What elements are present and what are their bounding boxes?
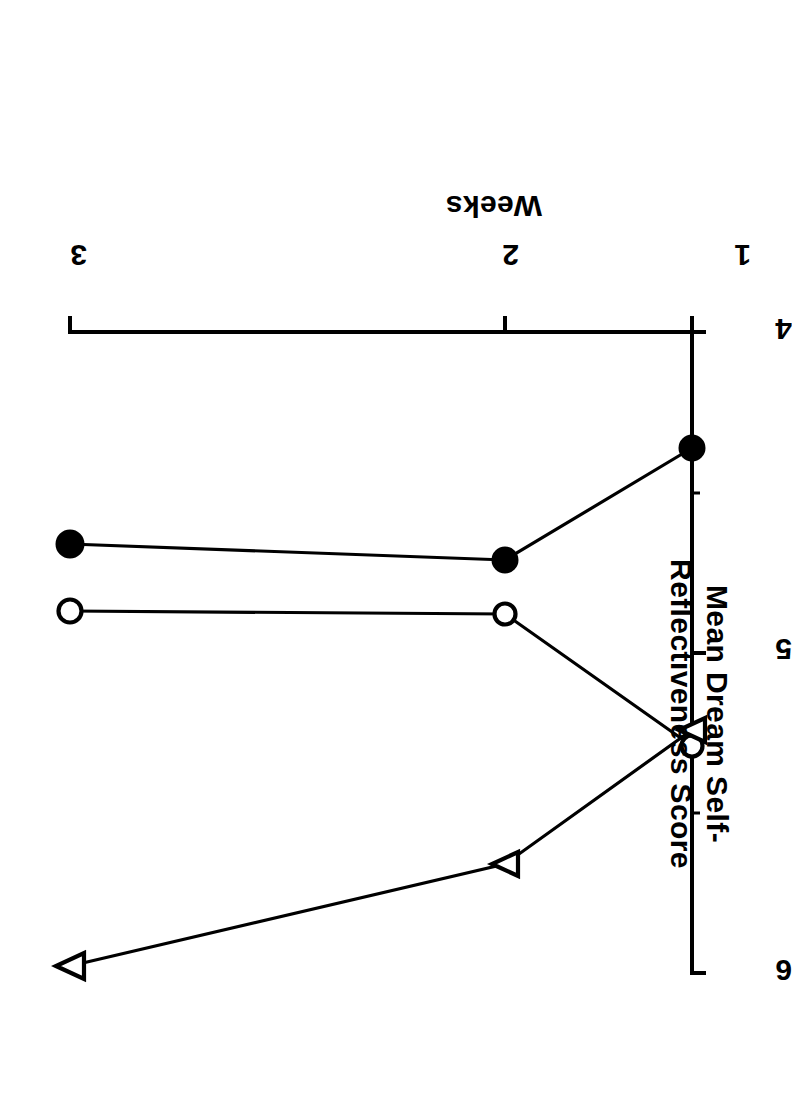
series-filled-circle <box>57 436 704 572</box>
datapoint-open-circle-week3 <box>59 600 82 623</box>
series-filled-circle-path <box>70 448 692 560</box>
datapoint-open-triangle-week2 <box>492 852 518 876</box>
y-axis-title-line1: Mean Dream Self- <box>699 504 735 924</box>
datapoint-filled-circle-week2 <box>493 548 517 572</box>
x-axis-title: Weeks <box>445 188 542 224</box>
series-open-triangle-path <box>70 730 692 966</box>
series-open-circle-path <box>70 611 692 746</box>
y-tick-label-4: 4 <box>775 314 792 344</box>
y-tick-label-6: 6 <box>775 955 792 985</box>
series-open-triangle <box>56 718 705 979</box>
y-axis-title: Mean Dream Self- Reflectiveness Score <box>663 504 735 924</box>
datapoint-open-triangle-week3 <box>56 953 84 979</box>
datapoint-filled-circle-week1 <box>680 436 704 460</box>
figure-stage: 6 5 4 1 2 3 Weeks Mean Dream Self- Refle… <box>0 0 810 1116</box>
y-tick-label-5: 5 <box>775 634 792 664</box>
axis-lines <box>70 316 706 973</box>
chart-figure: 6 5 4 1 2 3 Weeks Mean Dream Self- Refle… <box>0 0 810 1116</box>
series-open-circle <box>59 600 703 757</box>
x-axis-ticks <box>70 316 692 332</box>
x-tick-label-1: 1 <box>734 240 751 270</box>
x-tick-label-3: 3 <box>70 240 87 270</box>
datapoint-open-circle-week2 <box>495 604 516 625</box>
datapoint-filled-circle-week3 <box>57 531 83 557</box>
x-tick-label-2: 2 <box>502 240 519 270</box>
y-axis-title-line2: Reflectiveness Score <box>663 504 699 924</box>
